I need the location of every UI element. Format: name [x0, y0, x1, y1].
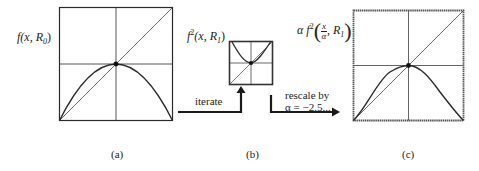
rescale-label: rescale by α = −2.5... — [285, 89, 331, 113]
panel-b-plot — [230, 42, 273, 85]
renormalization-figure: f(x, R0) f2(x, R1) α f2(xα, R1) iterate … — [0, 0, 479, 171]
caption-c: (c) — [402, 148, 414, 160]
fixed-point-dot — [114, 62, 119, 67]
panel-a-plot — [60, 8, 173, 121]
panel-c-plot — [354, 11, 464, 121]
panel-a-function-label: f(x, R0) — [17, 31, 51, 46]
caption-a: (a) — [111, 148, 123, 160]
panel-c-function-label: α f2(xα, R1) — [297, 20, 352, 42]
fixed-point-dot — [406, 63, 411, 68]
figure-canvas — [0, 0, 479, 171]
fixed-point-dot — [249, 61, 253, 65]
panel-b-function-label: f2(x, R1) — [187, 29, 225, 45]
caption-b: (b) — [246, 148, 259, 160]
iterate-label: iterate — [195, 95, 222, 107]
